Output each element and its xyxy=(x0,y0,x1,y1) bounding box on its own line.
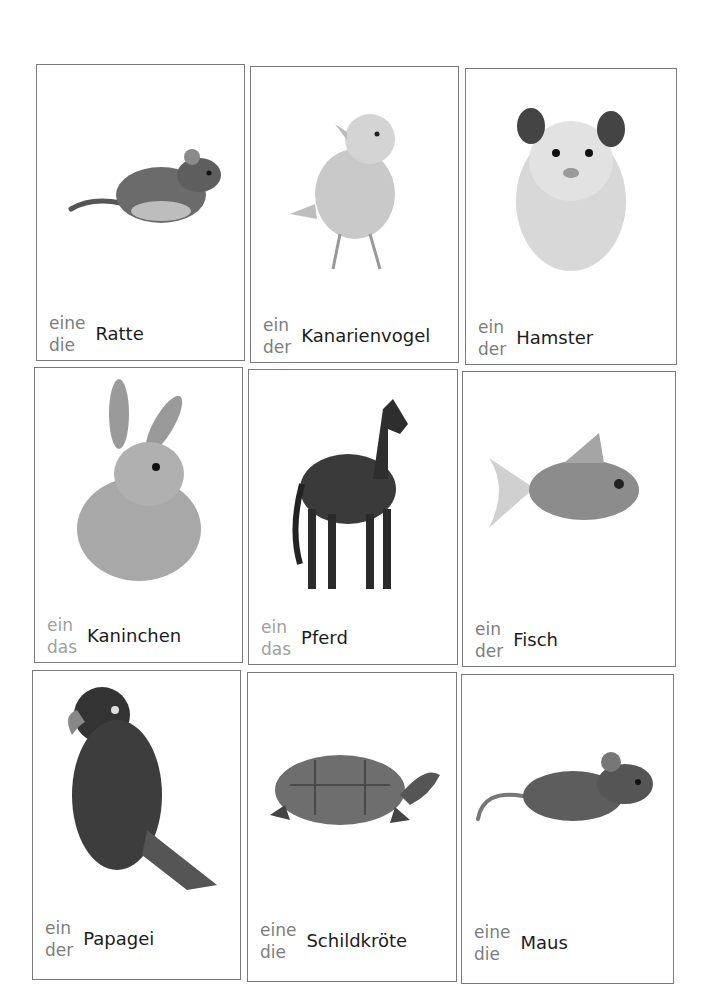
card-papagei: ein der Papagei xyxy=(32,670,241,980)
definite-article: das xyxy=(47,636,77,658)
indefinite-article: eine xyxy=(260,919,296,941)
article-stack: eine die xyxy=(260,919,296,963)
article-stack: ein der xyxy=(263,314,291,358)
card-label: ein der Hamster xyxy=(478,316,593,360)
card-fisch: ein der Fisch xyxy=(462,371,676,667)
goldfish-icon xyxy=(484,428,654,548)
indefinite-article: ein xyxy=(475,618,503,640)
rat-icon xyxy=(51,127,231,237)
card-pferd: ein das Pferd xyxy=(248,369,458,665)
horse-image xyxy=(249,370,457,602)
canary-icon xyxy=(285,94,425,274)
indefinite-article: eine xyxy=(49,312,85,334)
card-label: ein der Papagei xyxy=(45,917,154,961)
definite-article: das xyxy=(261,638,291,660)
rat-image xyxy=(37,65,244,298)
definite-article: der xyxy=(478,338,506,360)
mouse-icon xyxy=(473,744,663,839)
parrot-image xyxy=(33,671,240,904)
noun: Kaninchen xyxy=(87,625,181,647)
noun: Ratte xyxy=(95,323,143,345)
card-kaninchen: ein das Kaninchen xyxy=(34,367,243,663)
indefinite-article: ein xyxy=(261,616,291,638)
noun: Fisch xyxy=(513,629,558,651)
definite-article: die xyxy=(260,941,296,963)
article-stack: ein der xyxy=(478,316,506,360)
definite-article: die xyxy=(49,334,85,356)
card-label: ein das Pferd xyxy=(261,616,348,660)
turtle-image xyxy=(248,673,456,906)
canary-image xyxy=(251,67,458,300)
indefinite-article: ein xyxy=(478,316,506,338)
article-stack: eine die xyxy=(49,312,85,356)
article-stack: ein das xyxy=(261,616,291,660)
rabbit-icon xyxy=(64,379,214,589)
rabbit-image xyxy=(35,368,242,600)
noun: Pferd xyxy=(301,627,348,649)
horse-icon xyxy=(288,379,418,594)
indefinite-article: ein xyxy=(47,614,77,636)
definite-article: der xyxy=(475,640,503,662)
card-label: eine die Ratte xyxy=(49,312,144,356)
hamster-icon xyxy=(501,91,641,281)
definite-article: der xyxy=(45,939,73,961)
hamster-image xyxy=(466,69,676,302)
indefinite-article: eine xyxy=(474,921,510,943)
card-schildkroete: eine die Schildkröte xyxy=(247,672,457,982)
article-stack: ein der xyxy=(45,917,73,961)
indefinite-article: ein xyxy=(263,314,291,336)
parrot-icon xyxy=(47,680,227,895)
card-label: ein das Kaninchen xyxy=(47,614,181,658)
noun: Kanarienvogel xyxy=(301,325,430,347)
goldfish-image xyxy=(463,372,675,604)
card-maus: eine die Maus xyxy=(461,674,674,984)
definite-article: die xyxy=(474,943,510,965)
noun: Maus xyxy=(520,932,567,954)
card-label: ein der Kanarienvogel xyxy=(263,314,430,358)
article-stack: ein das xyxy=(47,614,77,658)
mouse-image xyxy=(462,675,673,908)
article-stack: eine die xyxy=(474,921,510,965)
noun: Hamster xyxy=(516,327,593,349)
card-hamster: ein der Hamster xyxy=(465,68,677,365)
turtle-icon xyxy=(260,745,445,835)
definite-article: der xyxy=(263,336,291,358)
card-label: eine die Maus xyxy=(474,921,568,965)
card-label: eine die Schildkröte xyxy=(260,919,407,963)
article-stack: ein der xyxy=(475,618,503,662)
noun: Papagei xyxy=(83,928,154,950)
noun: Schildkröte xyxy=(306,930,407,952)
indefinite-article: ein xyxy=(45,917,73,939)
card-label: ein der Fisch xyxy=(475,618,558,662)
card-ratte: eine die Ratte xyxy=(36,64,245,361)
card-kanarienvogel: ein der Kanarienvogel xyxy=(250,66,459,363)
